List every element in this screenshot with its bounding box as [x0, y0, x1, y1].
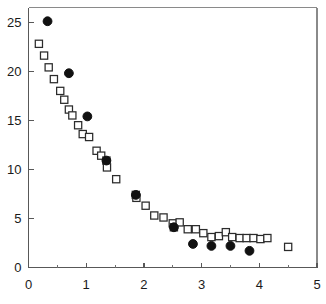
y-tick-label: 0 — [14, 260, 21, 275]
y-tick-label: 15 — [7, 113, 21, 128]
data-point-circle — [131, 191, 140, 200]
data-point-square — [69, 112, 76, 119]
data-point-circle — [170, 223, 179, 232]
data-point-circle — [43, 17, 52, 26]
x-tick-label: 3 — [198, 277, 205, 292]
data-point-square — [229, 233, 236, 240]
data-point-square — [40, 52, 47, 59]
x-tick-label: 5 — [313, 277, 320, 292]
chart-figure: 0123450510152025 — [0, 0, 326, 304]
series-open-squares — [35, 40, 291, 250]
data-point-square — [113, 176, 120, 183]
data-point-circle — [245, 246, 254, 255]
data-point-circle — [102, 156, 111, 165]
x-tick-label: 1 — [83, 277, 90, 292]
data-point-square — [57, 87, 64, 94]
y-tick-label: 5 — [14, 211, 21, 226]
data-point-square — [285, 243, 292, 250]
data-point-square — [142, 202, 149, 209]
data-point-square — [151, 212, 158, 219]
y-tick-label: 10 — [7, 162, 21, 177]
data-point-circle — [83, 112, 92, 121]
data-point-square — [50, 76, 57, 83]
data-point-square — [250, 234, 257, 241]
axis-tick-labels: 0123450510152025 — [7, 15, 321, 292]
data-point-square — [264, 234, 271, 241]
data-point-square — [215, 233, 222, 240]
data-point-square — [184, 226, 191, 233]
data-point-square — [192, 226, 199, 233]
y-tick-label: 25 — [7, 15, 21, 30]
data-point-circle — [207, 242, 216, 251]
x-tick-label: 4 — [256, 277, 263, 292]
data-point-square — [200, 230, 207, 237]
series-filled-circles — [43, 17, 254, 255]
y-tick-label: 20 — [7, 64, 21, 79]
data-point-circle — [64, 69, 73, 78]
data-point-square — [208, 233, 215, 240]
x-tick-label: 2 — [140, 277, 147, 292]
data-point-square — [236, 234, 243, 241]
data-point-square — [45, 64, 52, 71]
data-point-circle — [226, 242, 235, 251]
data-point-circle — [189, 240, 198, 249]
data-point-square — [85, 133, 92, 140]
data-point-square — [257, 235, 264, 242]
data-point-square — [75, 122, 82, 129]
data-point-square — [243, 234, 250, 241]
data-point-square — [160, 214, 167, 221]
data-point-square — [61, 96, 68, 103]
scatter-plot: 0123450510152025 — [0, 0, 326, 304]
data-point-square — [35, 40, 42, 47]
x-tick-label: 0 — [25, 277, 32, 292]
